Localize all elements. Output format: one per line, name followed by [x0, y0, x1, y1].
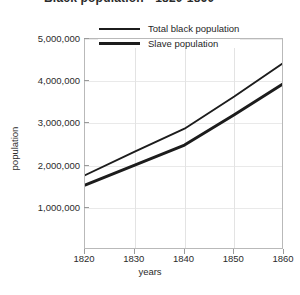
- y-axis-tick-mark: [84, 165, 89, 166]
- x-axis-tick-mark: [134, 249, 135, 254]
- x-axis-tick-mark: [184, 249, 185, 254]
- x-axis-tick-label: 1830: [123, 253, 144, 264]
- x-axis-tick-label: 1840: [173, 253, 194, 264]
- y-axis-tick-mark: [84, 38, 89, 39]
- series-line: [85, 63, 283, 176]
- series-line: [85, 83, 283, 185]
- legend-label: Total black population: [148, 24, 239, 34]
- y-axis-tick-label: 1,000,000: [4, 201, 80, 212]
- x-axis-tick-label: 1820: [73, 253, 94, 264]
- series-layer: [85, 39, 283, 249]
- chart-legend: Total black population Slave population: [98, 24, 240, 48]
- plot-area: [84, 38, 283, 249]
- y-axis-tick-mark: [84, 207, 89, 208]
- x-axis-tick-mark: [84, 249, 85, 254]
- x-axis-tick-mark: [283, 249, 284, 254]
- y-axis-label: population: [9, 104, 20, 194]
- thin-line-swatch-icon: [99, 28, 140, 30]
- x-axis-tick-mark: [233, 249, 234, 254]
- y-axis-tick-mark: [84, 80, 89, 81]
- thick-line-swatch-icon: [99, 42, 140, 45]
- chart-container: Black population - 1820-1860 1,000,0002,…: [0, 0, 300, 295]
- legend-item-slave-population: Slave population: [98, 39, 240, 49]
- x-axis-label: years: [0, 266, 300, 277]
- legend-item-total-black-population: Total black population: [98, 24, 240, 34]
- y-axis-tick-mark: [84, 122, 89, 123]
- y-axis-tick-label: 4,000,000: [4, 75, 80, 86]
- x-axis-tick-label: 1850: [223, 253, 244, 264]
- y-axis-tick-label: 5,000,000: [4, 33, 80, 44]
- x-axis-tick-label: 1860: [272, 253, 293, 264]
- legend-label: Slave population: [148, 39, 218, 49]
